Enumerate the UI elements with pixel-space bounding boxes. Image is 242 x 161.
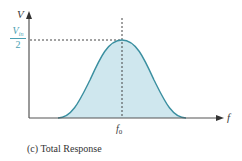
f0-label-sub: 0: [119, 128, 123, 136]
y-axis-label: V: [17, 9, 24, 20]
y-axis-arrow-icon: [26, 11, 32, 19]
x-axis-label: f: [227, 112, 230, 123]
x-axis-arrow-icon: [216, 115, 224, 121]
peak-label-numerator: Vin: [10, 26, 26, 39]
figure-caption: (c) Total Response: [27, 143, 102, 154]
peak-label-sub: in: [19, 31, 24, 37]
f0-tick-label: f0: [116, 124, 122, 136]
response-plot: [0, 0, 242, 161]
peak-value-label: Vin 2: [10, 26, 26, 50]
peak-label-denominator: 2: [10, 39, 26, 50]
